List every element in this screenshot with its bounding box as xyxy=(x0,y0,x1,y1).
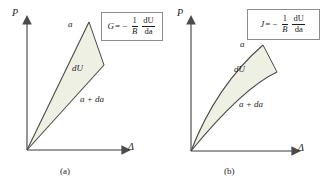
formula-b-fraction-2: dU da xyxy=(292,14,304,34)
formula-a-frac1-num: 1 xyxy=(132,16,138,27)
formula-b-fraction-1: 1 B xyxy=(281,14,288,34)
panel-b: P Δ a dU a + da (b) J = − 1 B dU da xyxy=(167,0,333,184)
formula-a-variable: G xyxy=(107,22,114,31)
caption-b: (b) xyxy=(224,166,235,176)
formula-box-b: J = − 1 B dU da xyxy=(247,9,320,40)
formula-b-equals: = xyxy=(265,20,270,29)
formula-a-fraction-1: 1 B xyxy=(131,16,138,36)
area-label-b: dU xyxy=(234,65,245,74)
curve-label-b-upper: a xyxy=(240,40,245,49)
y-axis-label-a: P xyxy=(12,8,18,18)
formula-a-frac2-den: da xyxy=(143,27,153,37)
panel-a: P Δ a dU a + da (a) G = − 1 B dU da xyxy=(0,0,166,184)
x-axis-label-a: Δ xyxy=(128,142,134,152)
formula-b-frac1-den: B xyxy=(281,25,288,35)
y-axis-label-b: P xyxy=(177,8,183,18)
formula-a-equals: = xyxy=(115,22,120,31)
curve-label-a-lower: a + da xyxy=(80,95,104,104)
formula-a-frac1-den: B xyxy=(131,27,138,37)
formula-b-minus: − xyxy=(272,20,277,29)
area-label-a: dU xyxy=(72,64,83,73)
formula-a-minus: − xyxy=(122,22,127,31)
formula-box-a: G = − 1 B dU da xyxy=(101,12,163,41)
curve-label-b-lower: a + da xyxy=(239,100,263,109)
curve-label-a-upper: a xyxy=(68,20,73,29)
formula-b-variable: J xyxy=(260,20,264,29)
formula-a: G = − 1 B dU da xyxy=(107,16,156,36)
formula-b: J = − 1 B dU da xyxy=(260,14,307,34)
formula-b-frac2-den: da xyxy=(294,25,304,35)
figure-container: P Δ a dU a + da (a) G = − 1 B dU da xyxy=(0,0,333,184)
formula-a-frac2-num: dU xyxy=(142,16,154,27)
x-axis-label-b: Δ xyxy=(298,143,304,153)
formula-b-frac2-num: dU xyxy=(292,14,304,25)
caption-a: (a) xyxy=(60,166,70,176)
area-du-a xyxy=(27,22,104,150)
formula-a-fraction-2: dU da xyxy=(142,16,154,36)
formula-b-frac1-num: 1 xyxy=(282,14,288,25)
